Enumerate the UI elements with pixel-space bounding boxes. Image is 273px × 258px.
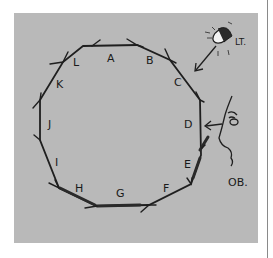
shaded-strokes bbox=[60, 137, 208, 206]
vertex-label-h: H bbox=[75, 182, 83, 195]
light-source-label: LT. bbox=[235, 37, 246, 47]
face-profile-icon bbox=[219, 96, 238, 166]
vertex-label-b: B bbox=[146, 54, 154, 67]
vertex-label-f: F bbox=[163, 182, 169, 195]
vertex-label-e: E bbox=[184, 158, 191, 171]
lamp-icon bbox=[205, 22, 232, 56]
vertex-label-l: L bbox=[73, 56, 80, 69]
vertex-label-d: D bbox=[184, 118, 192, 131]
polygon-diagram: A B C D E F G H I J K L LT. OB. bbox=[0, 0, 273, 258]
vertex-label-a: A bbox=[107, 52, 115, 65]
vertex-label-g: G bbox=[116, 187, 125, 200]
light-arrow bbox=[195, 46, 216, 71]
vertex-label-c: C bbox=[174, 76, 182, 89]
vertex-label-j: J bbox=[47, 118, 51, 131]
observer-arrow bbox=[205, 121, 222, 130]
vertex-label-k: K bbox=[56, 78, 64, 91]
vertex-label-i: I bbox=[55, 156, 58, 169]
polygon-outline bbox=[40, 45, 201, 206]
vertex-labels: A B C D E F G H I J K L bbox=[47, 52, 192, 200]
observer-label: OB. bbox=[228, 176, 248, 189]
